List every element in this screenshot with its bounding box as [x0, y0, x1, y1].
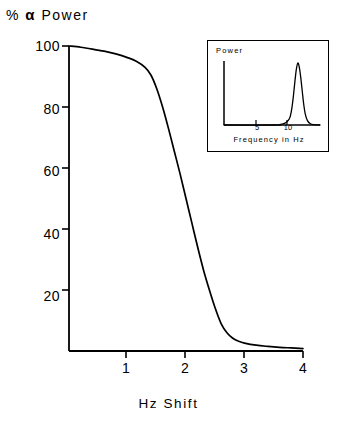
inset-plot-svg [208, 41, 330, 153]
alpha-power-figure: % α Power 100 80 60 40 20 1 2 3 4 Hz Shi… [0, 0, 337, 432]
inset-spectrum-curve [224, 63, 320, 125]
inset-spectrum-panel: Power 5 10 Frequency in Hz [207, 40, 329, 152]
